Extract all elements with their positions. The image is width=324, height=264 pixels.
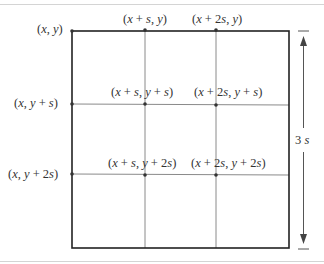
point-x-s-y-s	[143, 102, 147, 106]
arrow-up-icon	[300, 36, 307, 46]
horizontal-grid-line-2	[72, 174, 289, 175]
label-inner-2-1: (x + s, y + 2s)	[108, 156, 176, 171]
grid-diagram	[0, 0, 324, 264]
grid-lines	[72, 30, 289, 248]
point-x-s-y	[143, 28, 147, 32]
label-inner-2-2: (x + 2s, y + 2s)	[191, 156, 266, 171]
label-top-1: (x + s, y)	[123, 12, 167, 27]
label-top-2: (x + 2s, y)	[192, 12, 242, 27]
grid-points	[70, 28, 218, 177]
point-x-2s-y	[214, 28, 218, 32]
arrow-down-icon	[300, 234, 307, 244]
label-inner-1-1: (x + s, y + s)	[111, 85, 173, 100]
label-inner-1-2: (x + 2s, y + s)	[194, 85, 262, 100]
outer-square	[72, 31, 289, 248]
point-x-y-2s	[70, 172, 74, 176]
horizontal-grid-line-1	[72, 104, 289, 105]
point-x-y-s	[70, 102, 74, 106]
point-x-2s-y-s	[214, 103, 218, 107]
dimension-label: 3 s	[295, 133, 309, 148]
point-x-2s-y-2s	[214, 173, 218, 177]
point-x-y	[70, 29, 74, 33]
point-x-s-y-2s	[143, 173, 147, 177]
label-top-left: (x, y)	[37, 22, 63, 37]
label-left-2: (x, y + 2s)	[8, 167, 58, 182]
label-left-1: (x, y + s)	[14, 96, 58, 111]
